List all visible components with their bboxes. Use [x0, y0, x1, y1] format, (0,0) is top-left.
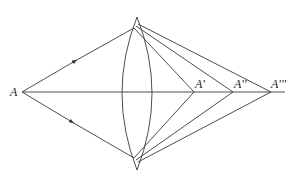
label-image-a-triple-prime: A''' [271, 78, 286, 90]
label-object-a: A [10, 86, 17, 98]
incident-ray-lower [22, 92, 134, 158]
incident-ray-upper [22, 28, 134, 92]
biconvex-lens [122, 17, 152, 170]
diagram-svg [0, 0, 298, 183]
label-image-a-double-prime: A'' [234, 78, 246, 90]
lens-ray-diagram: A A' A'' A''' [0, 0, 298, 183]
label-image-a-prime: A' [195, 78, 205, 90]
refracted-rays-lower [134, 92, 271, 162]
